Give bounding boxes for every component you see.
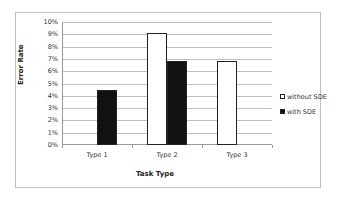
y-tick-label: 10% (34, 18, 58, 26)
legend-swatch-white (280, 94, 285, 99)
y-axis-title: Error Rate (17, 44, 25, 85)
legend-label: without SDE (287, 93, 327, 101)
x-axis-title: Task Type (115, 170, 195, 178)
legend-item-with-sde: with SDE (280, 104, 327, 119)
x-tick-mark (202, 145, 203, 148)
legend-swatch-black (280, 109, 285, 114)
gridline (62, 47, 272, 48)
gridline (62, 34, 272, 35)
gridline (62, 59, 272, 60)
x-tick-mark (272, 145, 273, 148)
y-tick-label: 1% (34, 129, 58, 137)
x-tick-mark (62, 145, 63, 148)
y-tick-label: 6% (34, 67, 58, 75)
x-tick-mark (132, 145, 133, 148)
y-tick-label: 7% (34, 55, 58, 63)
legend-item-without-sde: without SDE (280, 89, 327, 104)
y-tick-label: 8% (34, 43, 58, 51)
y-tick-label: 2% (34, 116, 58, 124)
y-tick-label: 9% (34, 30, 58, 38)
bar-with-sde-type-1 (97, 90, 117, 145)
legend-label: with SDE (287, 108, 316, 116)
y-tick-label: 3% (34, 104, 58, 112)
x-tick-label: Type 1 (77, 151, 117, 159)
y-tick-label: 5% (34, 80, 58, 88)
bar-without-sde-type-2 (147, 33, 167, 145)
plot-area: 0%1%2%3%4%5%6%7%8%9%10%Type 1Type 2Type … (62, 22, 272, 145)
y-axis (62, 22, 63, 145)
legend: without SDE with SDE (280, 89, 327, 119)
bar-without-sde-type-3 (217, 61, 237, 145)
y-tick-label: 0% (34, 141, 58, 149)
x-tick-label: Type 3 (217, 151, 257, 159)
bar-with-sde-type-2 (167, 61, 187, 145)
x-tick-label: Type 2 (147, 151, 187, 159)
gridline (62, 22, 272, 23)
y-tick-label: 4% (34, 92, 58, 100)
